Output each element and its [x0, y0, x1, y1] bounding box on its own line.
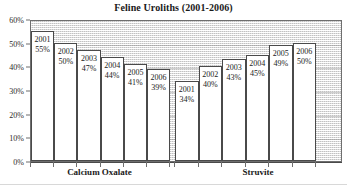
bar-value-label: 44% [102, 71, 123, 81]
bar[interactable]: 200250% [54, 43, 77, 161]
x-tick-mark [169, 162, 170, 167]
y-tick-label: 50% [9, 39, 24, 48]
bar[interactable]: 200639% [147, 69, 170, 161]
bar[interactable]: 200444% [101, 57, 124, 161]
bar-year-label: 2003 [223, 63, 245, 73]
bar[interactable]: 200445% [246, 55, 270, 162]
bar-value-label: 34% [176, 95, 198, 105]
plot-area: 200155%200250%200347%200444%200541%20063… [30, 20, 342, 162]
y-axis: 0%10%20%30%40%50%60% [0, 20, 28, 162]
x-category-label: Calcium Oxalate [30, 167, 169, 177]
y-tick-label: 60% [9, 16, 24, 25]
bar-year-label: 2006 [148, 73, 169, 83]
bar[interactable]: 200549% [269, 45, 293, 161]
chart-container: Feline Uroliths (2001-2006) 0%10%20%30%4… [0, 0, 347, 185]
bar-year-label: 2006 [294, 47, 316, 57]
bar-group-struvite: 200134%200240%200343%200445%200549%20065… [175, 21, 342, 161]
bar-value-label: 45% [247, 69, 269, 79]
y-tick-label: 20% [9, 110, 24, 119]
bar-value-label: 50% [55, 57, 76, 67]
bar-value-label: 39% [148, 83, 169, 93]
bar[interactable]: 200347% [77, 50, 100, 161]
y-tick-label: 10% [9, 134, 24, 143]
bar-year-label: 2002 [55, 47, 76, 57]
y-tick-label: 0% [13, 158, 24, 167]
bar-value-label: 41% [125, 78, 146, 88]
bar-year-label: 2004 [247, 59, 269, 69]
bar-value-label: 43% [223, 73, 245, 83]
bar[interactable]: 200240% [199, 66, 223, 161]
bar-year-label: 2003 [78, 54, 99, 64]
bar-value-label: 47% [78, 64, 99, 74]
bar-value-label: 50% [294, 57, 316, 67]
bar-year-label: 2001 [32, 35, 53, 45]
bar-year-label: 2004 [102, 61, 123, 71]
bar[interactable]: 200541% [124, 64, 147, 161]
y-tick-label: 40% [9, 63, 24, 72]
bar[interactable]: 200650% [293, 43, 317, 161]
bar-year-label: 2001 [176, 85, 198, 95]
bar-year-label: 2005 [125, 68, 146, 78]
chart-title: Feline Uroliths (2001-2006) [0, 2, 347, 13]
bar[interactable]: 200343% [222, 59, 246, 161]
bar-value-label: 49% [270, 59, 292, 69]
bar[interactable]: 200155% [31, 31, 54, 161]
x-category-label: Struvite [174, 167, 342, 177]
bar-year-label: 2005 [270, 49, 292, 59]
bar[interactable]: 200134% [175, 81, 199, 161]
bar-value-label: 55% [32, 45, 53, 55]
y-tick-label: 30% [9, 87, 24, 96]
bar-year-label: 2002 [200, 70, 222, 80]
bar-group-calcium-oxalate: 200155%200250%200347%200444%200541%20063… [31, 21, 170, 161]
bar-value-label: 40% [200, 80, 222, 90]
